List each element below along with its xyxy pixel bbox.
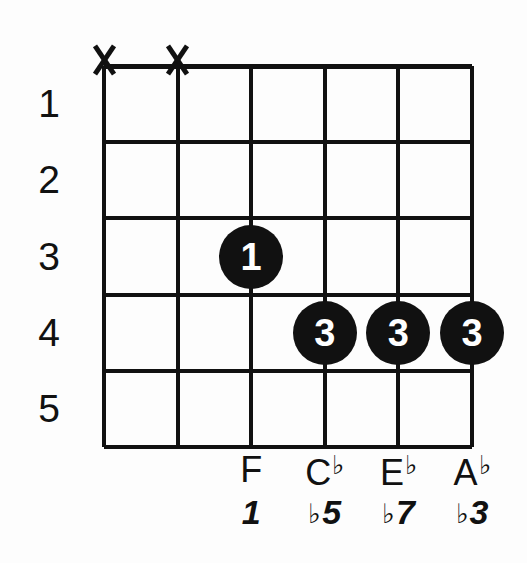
fret-line-2: [104, 216, 472, 220]
flat-icon: ♭: [405, 450, 417, 480]
flat-icon: ♭: [332, 450, 344, 480]
fret-number-5: 5: [18, 389, 80, 428]
note-letter: C: [305, 452, 331, 493]
finger-dot-string-3-fret-3: 1: [219, 225, 283, 289]
interval-degree: 3: [470, 493, 489, 531]
interval-degree: 5: [322, 493, 341, 531]
interval-label-string-6: ♭3: [427, 495, 517, 529]
finger-dot-string-6-fret-4: 3: [440, 301, 504, 365]
string-line-4: [323, 66, 327, 447]
interval-degree: 7: [396, 493, 415, 531]
fret-number-2: 2: [18, 160, 80, 199]
string-line-5: [396, 66, 400, 447]
note-letter: A: [453, 452, 477, 493]
string-line-6: [470, 66, 474, 447]
note-letter: F: [240, 449, 262, 490]
string-line-2: [176, 66, 180, 447]
fret-line-4: [104, 369, 472, 373]
string-line-1: [102, 66, 106, 447]
interval-degree: 1: [242, 493, 261, 531]
chord-diagram: 12345 1333 FC♭E♭A♭ 1♭5♭7♭3: [0, 0, 527, 563]
fret-line-5: [104, 445, 472, 449]
flat-icon: ♭: [456, 499, 469, 529]
fret-number-3: 3: [18, 237, 80, 276]
finger-dot-string-5-fret-4: 3: [366, 301, 430, 365]
nut-line: [104, 64, 472, 69]
flat-icon: ♭: [382, 499, 395, 529]
finger-dot-string-4-fret-4: 3: [293, 301, 357, 365]
fret-number-4: 4: [18, 313, 80, 352]
flat-icon: ♭: [479, 450, 491, 480]
flat-icon: ♭: [308, 499, 321, 529]
note-label-string-6: A♭: [427, 452, 517, 491]
fret-number-1: 1: [18, 84, 80, 123]
note-letter: E: [380, 452, 404, 493]
fret-line-3: [104, 293, 472, 297]
fret-line-1: [104, 140, 472, 144]
fretboard-grid: [104, 66, 472, 447]
